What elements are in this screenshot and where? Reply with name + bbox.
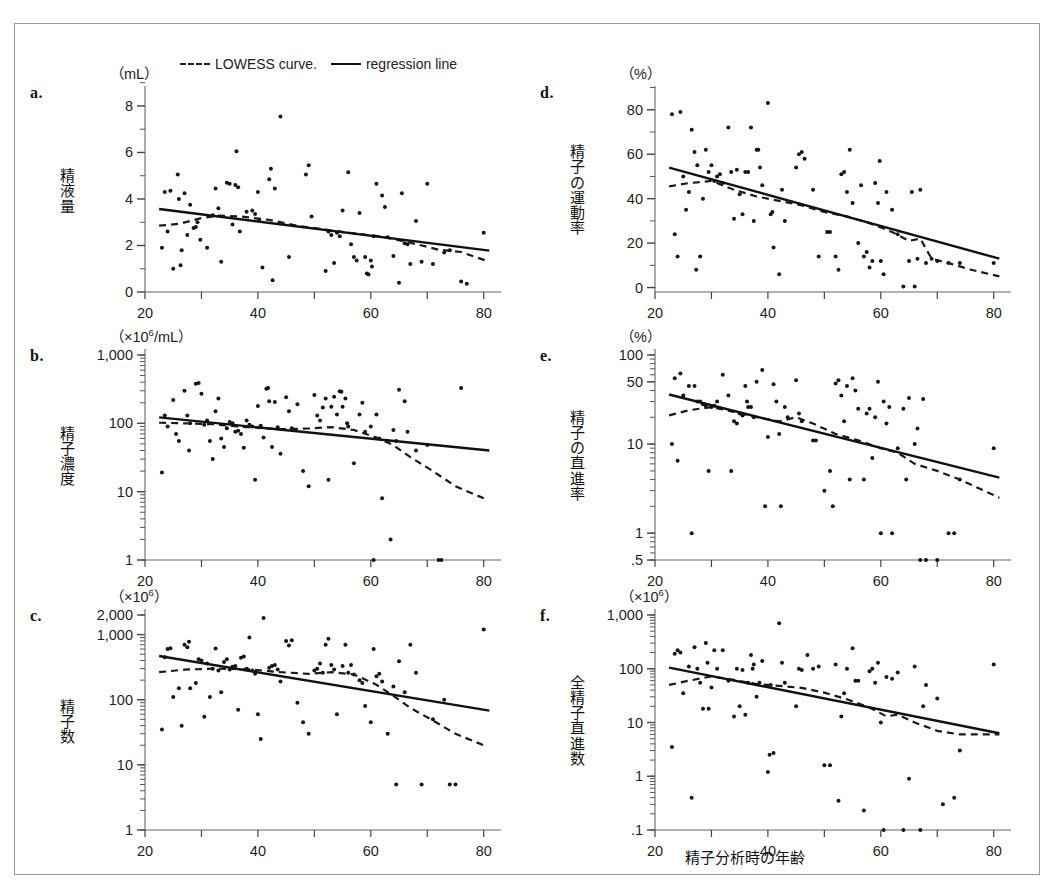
data-point [777,432,781,436]
data-point [160,471,164,475]
data-point [312,393,316,397]
data-point [735,667,739,671]
y-tick-label-a-3: 6 [125,144,133,160]
data-point [676,254,680,258]
data-point [856,407,860,411]
data-point [952,531,956,535]
data-point [329,405,333,409]
data-point [310,214,314,218]
data-point [670,745,674,749]
data-point [256,404,260,408]
data-point [383,205,387,209]
data-point [684,208,688,212]
data-point [307,484,311,488]
data-point [343,643,347,647]
data-point [431,262,435,266]
data-point [360,401,364,405]
data-point [732,217,736,221]
data-point [326,637,330,641]
data-point [868,266,872,270]
data-point [732,714,736,718]
data-point [901,828,905,832]
data-point [377,672,381,676]
data-point [834,381,838,385]
data-point [222,445,226,449]
data-point [760,368,764,372]
data-point [171,267,175,271]
data-point [171,695,175,699]
unit-label-f: （×106） [620,585,678,606]
data-point [698,681,702,685]
data-point [262,436,266,440]
data-point [414,449,418,453]
data-point [704,148,708,152]
y-tick-label-f-4: 1,000 [607,607,643,623]
data-point [865,412,869,416]
data-point [760,659,764,663]
data-point [735,168,739,172]
data-point [177,439,181,443]
data-point [287,409,291,413]
data-point [848,148,852,152]
data-point [694,268,698,272]
data-point [307,732,311,736]
y-tick-label-d-2: 40 [627,191,643,207]
data-point [180,248,184,252]
y-axis-title-b: 精子濃度 [57,426,77,487]
data-point [442,698,446,702]
data-point [845,384,849,388]
data-point [856,679,860,683]
data-point [185,414,189,418]
data-point [707,170,711,174]
data-point [326,478,330,482]
data-point [870,456,874,460]
data-point [196,220,200,224]
data-point [704,641,708,645]
data-point [828,763,832,767]
data-point [884,190,888,194]
data-point [171,398,175,402]
data-point [800,668,804,672]
data-point [287,644,291,648]
data-point [459,280,463,284]
data-point [420,260,424,264]
data-point [198,238,202,242]
x-tick-label-a-6: 80 [476,305,492,321]
data-point [360,681,364,685]
data-point [363,704,367,708]
data-point [339,390,343,394]
panel-a: a.（mL）精液量0246820406080 [20,52,540,342]
data-point [783,219,787,223]
data-point [211,457,215,461]
data-point [670,112,674,116]
data-point [695,163,699,167]
data-point [693,384,697,388]
data-point [907,777,911,781]
data-point [176,173,180,177]
data-point [253,212,257,216]
data-point [772,751,776,755]
data-point [355,259,359,263]
data-point [913,442,917,446]
data-point [749,653,753,657]
data-point [783,681,787,685]
data-point [397,659,401,663]
data-point [307,163,311,167]
data-point [216,206,220,210]
data-point [935,696,939,700]
data-point [425,182,429,186]
data-point [690,531,694,535]
y-tick-label-c-1: 10 [117,757,133,773]
data-point [188,686,192,690]
data-point [907,396,911,400]
data-point [752,219,756,223]
data-point [715,400,719,404]
y-tick-label-e-4: 100 [619,347,643,363]
data-point [876,201,880,205]
data-point [332,668,336,672]
data-point [706,661,710,665]
unit-label-a: （mL） [110,62,158,83]
data-point [369,720,373,724]
y-tick-label-e-0: .5 [631,552,643,568]
regression-line-d [669,168,999,259]
